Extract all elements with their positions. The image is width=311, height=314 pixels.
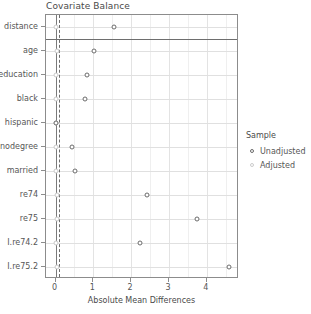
legend: Sample Unadjusted Adjusted bbox=[246, 131, 310, 173]
gridline-vertical bbox=[131, 15, 132, 277]
data-point-adjusted-re75 bbox=[55, 217, 60, 222]
y-axis-label-age: age bbox=[23, 46, 38, 55]
data-point-unadjusted-education bbox=[84, 73, 89, 78]
legend-label-adjusted: Adjusted bbox=[260, 161, 295, 170]
data-point-unadjusted-I.re74.2 bbox=[138, 241, 143, 246]
data-point-unadjusted-re74 bbox=[145, 193, 150, 198]
y-axis-tick bbox=[41, 26, 45, 27]
y-axis-label-black: black bbox=[17, 94, 38, 103]
gridline-horizontal bbox=[46, 51, 237, 52]
gridline-horizontal bbox=[46, 75, 237, 76]
gridline-vertical bbox=[93, 15, 94, 277]
x-axis-tick-label: 2 bbox=[128, 283, 133, 292]
legend-label-unadjusted: Unadjusted bbox=[260, 147, 306, 156]
data-point-unadjusted-married bbox=[73, 169, 78, 174]
circle-open-icon bbox=[250, 149, 254, 153]
gridline-horizontal bbox=[46, 123, 237, 124]
y-axis-tick bbox=[41, 266, 45, 267]
threshold-line bbox=[59, 15, 60, 277]
data-point-adjusted-married bbox=[53, 169, 58, 174]
data-point-adjusted-distance bbox=[53, 25, 58, 30]
y-axis-labels: distanceageeducationblackhispanicnodegre… bbox=[0, 14, 38, 278]
gridline-vertical-minor bbox=[112, 15, 113, 277]
page-title: Covariate Balance bbox=[46, 1, 130, 11]
x-axis-tick-label: 4 bbox=[203, 283, 208, 292]
gridline-horizontal bbox=[46, 27, 237, 28]
legend-item-unadjusted[interactable]: Unadjusted bbox=[246, 145, 310, 157]
gridline-vertical-minor bbox=[188, 15, 189, 277]
data-point-adjusted-re74 bbox=[54, 193, 59, 198]
y-axis-label-education: education bbox=[0, 70, 38, 79]
y-axis-tick bbox=[41, 50, 45, 51]
gridline-vertical-minor bbox=[74, 15, 75, 277]
y-axis-tick bbox=[41, 74, 45, 75]
x-axis-title: Absolute Mean Differences bbox=[45, 296, 238, 305]
legend-item-adjusted[interactable]: Adjusted bbox=[246, 159, 310, 171]
data-point-adjusted-age bbox=[54, 49, 59, 54]
x-axis-tick bbox=[92, 278, 93, 282]
x-axis-tick bbox=[130, 278, 131, 282]
y-axis-tick bbox=[41, 122, 45, 123]
x-axis-tick bbox=[168, 278, 169, 282]
gridline-vertical bbox=[169, 15, 170, 277]
circle-open-icon bbox=[250, 163, 254, 167]
data-point-unadjusted-black bbox=[83, 97, 88, 102]
legend-marker-unadjusted-key bbox=[246, 149, 257, 153]
data-point-adjusted-education bbox=[54, 73, 59, 78]
y-axis-label-distance: distance bbox=[4, 22, 38, 31]
gridline-horizontal bbox=[46, 267, 237, 268]
x-axis-tick-label: 3 bbox=[165, 283, 170, 292]
gridline-horizontal bbox=[46, 219, 237, 220]
y-axis-label-I.re74.2: I.re74.2 bbox=[7, 238, 38, 247]
x-axis-tick-label: 1 bbox=[90, 283, 95, 292]
y-axis-tick bbox=[41, 194, 45, 195]
gridline-horizontal bbox=[46, 147, 237, 148]
covariate-balance-plot: Covariate Balance distanceageeducationbl… bbox=[0, 0, 311, 314]
x-axis-tick bbox=[55, 278, 56, 282]
data-point-unadjusted-hispanic bbox=[54, 121, 59, 126]
gridline-vertical-minor bbox=[226, 15, 227, 277]
gridline-vertical-minor bbox=[150, 15, 151, 277]
y-axis-label-re75: re75 bbox=[20, 214, 38, 223]
data-point-unadjusted-nodegree bbox=[69, 145, 74, 150]
legend-title: Sample bbox=[246, 131, 310, 140]
data-point-unadjusted-I.re75.2 bbox=[226, 265, 231, 270]
y-axis-tick bbox=[41, 218, 45, 219]
x-axis-tick bbox=[206, 278, 207, 282]
y-axis-tick bbox=[41, 242, 45, 243]
y-axis-label-married: married bbox=[7, 166, 38, 175]
gridline-vertical bbox=[207, 15, 208, 277]
y-axis-label-re74: re74 bbox=[20, 190, 38, 199]
data-point-unadjusted-distance bbox=[112, 25, 117, 30]
data-point-unadjusted-age bbox=[92, 49, 97, 54]
plot-area bbox=[46, 15, 237, 277]
row-separator-line bbox=[46, 39, 237, 40]
y-axis-tick bbox=[41, 170, 45, 171]
data-point-adjusted-black bbox=[53, 97, 58, 102]
legend-marker-adjusted-key bbox=[246, 163, 257, 167]
y-axis-label-I.re75.2: I.re75.2 bbox=[7, 262, 38, 271]
data-point-adjusted-I.re74.2 bbox=[54, 241, 59, 246]
y-axis-tick bbox=[41, 146, 45, 147]
gridline-horizontal bbox=[46, 99, 237, 100]
y-axis-label-nodegree: nodegree bbox=[0, 142, 38, 151]
y-axis-label-hispanic: hispanic bbox=[5, 118, 38, 127]
x-axis-tick-label: 0 bbox=[52, 283, 57, 292]
data-point-unadjusted-re75 bbox=[194, 217, 199, 222]
gridline-horizontal bbox=[46, 195, 237, 196]
plot-panel bbox=[45, 14, 238, 278]
y-axis-tick bbox=[41, 98, 45, 99]
data-point-adjusted-nodegree bbox=[53, 145, 58, 150]
data-point-adjusted-I.re75.2 bbox=[54, 265, 59, 270]
